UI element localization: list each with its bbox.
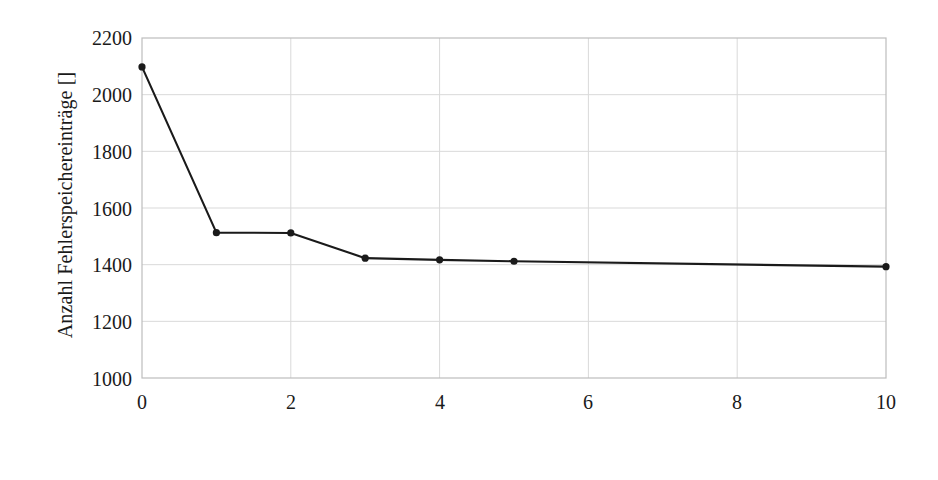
- data-series-line: [142, 67, 886, 267]
- chart-figure: Anzahl Fehlerspeichereinträge [] 2200 20…: [0, 0, 938, 480]
- series-polyline: [142, 67, 886, 267]
- data-point-marker: [882, 263, 889, 270]
- data-point-marker: [436, 256, 443, 263]
- gridlines: [142, 38, 886, 378]
- plot-area: [0, 0, 938, 480]
- data-point-marker: [287, 229, 294, 236]
- data-point-marker: [138, 63, 145, 70]
- data-point-marker: [510, 258, 517, 265]
- data-point-marker: [362, 255, 369, 262]
- data-point-marker: [213, 229, 220, 236]
